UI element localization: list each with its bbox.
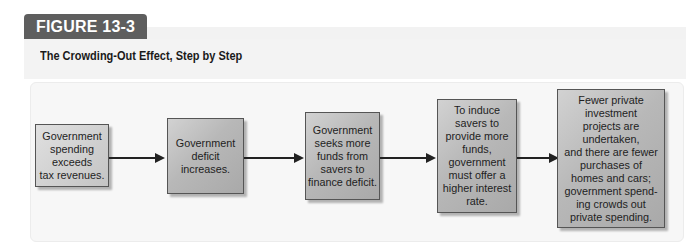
arrow-4-icon xyxy=(517,157,557,159)
step-2-text: Government deficit increases. xyxy=(176,137,235,176)
arrow-2-icon xyxy=(244,157,302,159)
arrow-3-icon xyxy=(380,157,434,159)
figure-label: FIGURE 13-3 xyxy=(24,14,147,39)
step-3-text: Government seeks more funds from savers … xyxy=(308,124,377,189)
figure-title: The Crowding-Out Effect, Step by Step xyxy=(40,49,242,63)
step-1-box: Government spending exceeds tax revenues… xyxy=(35,124,109,187)
step-3-box: Government seeks more funds from savers … xyxy=(305,112,380,200)
step-4-box: To induce savers to provide more funds, … xyxy=(437,99,517,213)
step-5-box: Fewer private investment projects are un… xyxy=(557,89,665,228)
step-5-text: Fewer private investment projects are un… xyxy=(564,94,658,224)
step-4-text: To induce savers to provide more funds, … xyxy=(443,104,511,208)
step-2-box: Government deficit increases. xyxy=(167,118,244,194)
arrow-1-icon xyxy=(109,157,163,159)
step-1-text: Government spending exceeds tax revenues… xyxy=(40,130,105,182)
